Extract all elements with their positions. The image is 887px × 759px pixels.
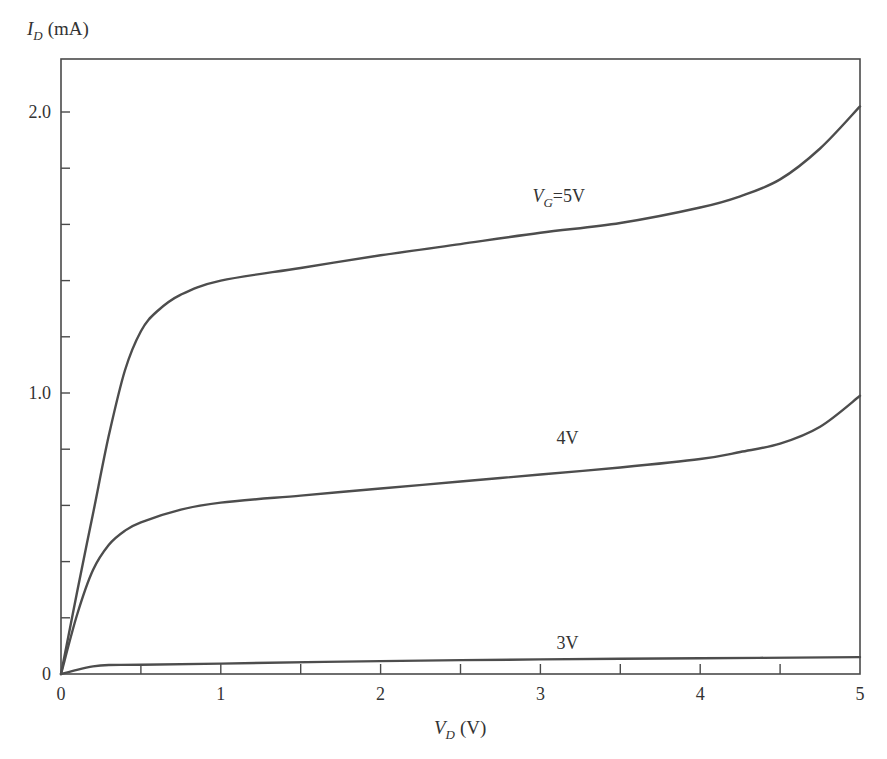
y-tick-label: 0 (42, 664, 51, 684)
x-tick-label: 1 (216, 684, 225, 704)
y-tick-label: 2.0 (29, 102, 52, 122)
x-axis-label: VD(V) (434, 717, 486, 742)
curve-4v (61, 396, 860, 674)
x-tick-label: 2 (376, 684, 385, 704)
x-tick-label: 3 (536, 684, 545, 704)
tick-labels: 01234501.02.0 (29, 102, 865, 704)
curve-label: 3V (556, 633, 578, 653)
x-tick-label: 0 (57, 684, 66, 704)
curve-v-g-5v (61, 106, 860, 674)
id-vd-chart: 01234501.02.0 VG=5V4V3V ID(mA) VD(V) (0, 0, 887, 759)
y-tick-label: 1.0 (29, 383, 52, 403)
plot-frame (61, 59, 860, 674)
curve-label: 4V (556, 428, 578, 448)
x-tick-label: 4 (696, 684, 705, 704)
plot-border (61, 59, 860, 674)
curve-label: VG=5V (532, 186, 585, 210)
curve-labels: VG=5V4V3V (532, 186, 585, 653)
axis-ticks (61, 112, 780, 674)
y-axis-label: ID(mA) (26, 18, 89, 43)
x-tick-label: 5 (856, 684, 865, 704)
curves (61, 106, 860, 674)
